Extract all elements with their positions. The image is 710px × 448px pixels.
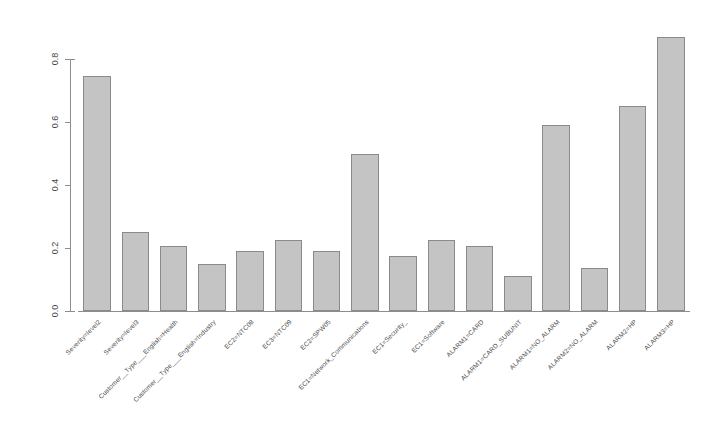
y-tick-label-4: 0.8 xyxy=(49,44,61,74)
bar xyxy=(542,125,570,311)
bar xyxy=(351,154,379,311)
y-axis-bottom-cap xyxy=(70,311,75,312)
bar xyxy=(504,276,532,311)
plot-area xyxy=(78,30,690,311)
bar xyxy=(275,240,303,311)
bar xyxy=(657,37,685,311)
bar xyxy=(389,256,417,311)
y-tick-label-3: 0.6 xyxy=(49,107,61,137)
y-tick-mark-0 xyxy=(65,311,70,312)
bar xyxy=(198,264,226,311)
bar xyxy=(428,240,456,311)
bar xyxy=(160,246,188,311)
y-tick-label-0: 0.0 xyxy=(49,296,61,326)
y-axis-top-cap xyxy=(70,59,75,60)
bar xyxy=(236,251,264,311)
x-tick-label: Severity=level2 xyxy=(0,318,102,448)
x-axis-baseline xyxy=(78,311,690,312)
y-tick-mark-1 xyxy=(65,248,70,249)
bar xyxy=(313,251,341,311)
y-tick-mark-2 xyxy=(65,185,70,186)
y-axis-line xyxy=(70,59,71,311)
bar xyxy=(122,232,150,311)
y-tick-label-1: 0.2 xyxy=(49,233,61,263)
y-tick-label-2: 0.4 xyxy=(49,170,61,200)
bar xyxy=(619,106,647,311)
bar xyxy=(581,268,609,311)
bar-chart: mean supporting (measure) 0.0 0.2 0.4 0.… xyxy=(0,0,710,448)
y-tick-mark-4 xyxy=(65,59,70,60)
bar xyxy=(466,246,494,311)
y-tick-mark-3 xyxy=(65,122,70,123)
bar xyxy=(83,76,111,311)
